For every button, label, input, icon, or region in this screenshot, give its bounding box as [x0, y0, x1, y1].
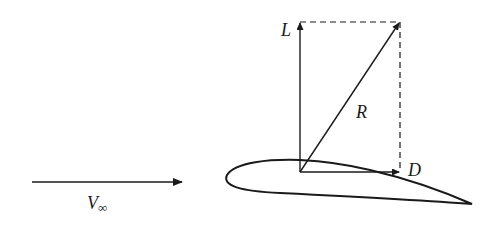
resultant-arrow: [300, 23, 399, 172]
drag-label: D: [408, 160, 421, 181]
force-diagram: [0, 0, 494, 226]
freestream-subscript: ∞: [98, 200, 107, 215]
lift-label: L: [281, 20, 291, 41]
resultant-label: R: [356, 102, 367, 123]
airfoil-shape: [226, 160, 472, 204]
freestream-symbol: V: [87, 193, 98, 213]
freestream-label: V∞: [87, 193, 107, 216]
